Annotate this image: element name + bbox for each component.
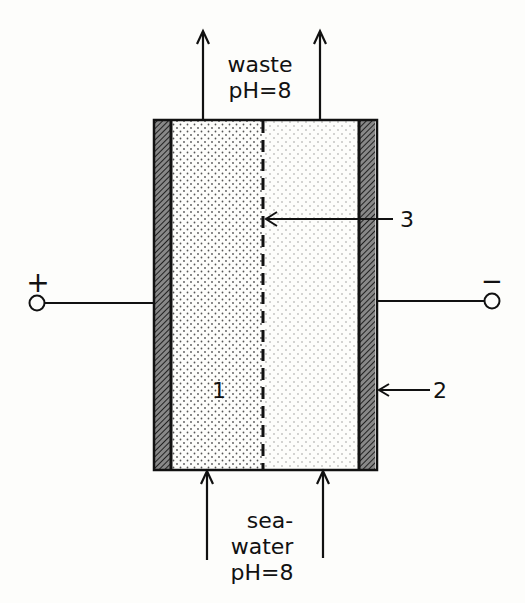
cell-diagram: waste pH=8 sea- water pH=8 + − 1 2 3 xyxy=(0,0,525,603)
bottom-label-line3: pH=8 xyxy=(231,560,294,585)
cathode-compartment xyxy=(263,121,358,469)
bottom-label-line2: water xyxy=(231,534,295,559)
positive-sign: + xyxy=(26,266,49,299)
top-label-line2: pH=8 xyxy=(229,78,292,103)
callout-label-1: 1 xyxy=(212,378,226,403)
callout-label-3: 3 xyxy=(400,207,414,232)
anode-compartment xyxy=(172,121,263,469)
bottom-label-line1: sea- xyxy=(247,508,293,533)
negative-sign: − xyxy=(481,266,503,296)
cathode-electrode xyxy=(360,121,375,469)
anode-electrode xyxy=(155,121,170,469)
callout-label-2: 2 xyxy=(433,378,447,403)
top-label-line1: waste xyxy=(227,52,292,77)
